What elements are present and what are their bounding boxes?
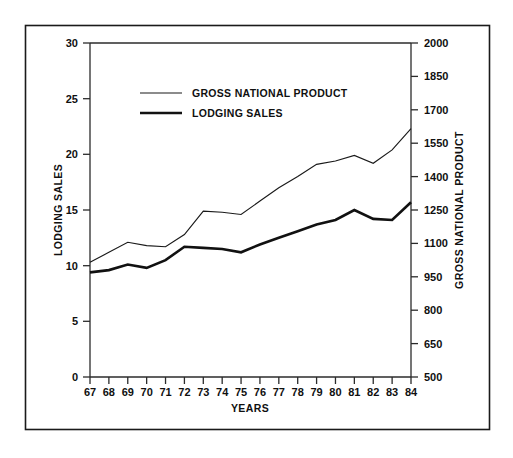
left-tick-label: 10 xyxy=(66,260,78,272)
legend-label-lodging-sales: LODGING SALES xyxy=(192,107,283,119)
x-axis-tick-label: 73 xyxy=(197,386,209,398)
x-axis-tick-label: 72 xyxy=(178,386,190,398)
x-axis-tick-label: 77 xyxy=(273,386,285,398)
right-axis-ticks xyxy=(411,43,418,377)
chart-legend: GROSS NATIONAL PRODUCT LODGING SALES xyxy=(140,87,348,119)
figure-container: 30 25 20 15 10 5 0 2000 1850 1700 155 xyxy=(0,0,513,458)
x-axis-tick-label: 69 xyxy=(122,386,134,398)
x-axis-tick-label: 70 xyxy=(141,386,153,398)
right-tick-label: 650 xyxy=(424,338,442,350)
left-tick-label: 25 xyxy=(66,93,78,105)
right-tick-label: 1850 xyxy=(424,70,448,82)
left-tick-label: 20 xyxy=(66,148,78,160)
left-tick-label: 30 xyxy=(66,37,78,49)
right-tick-label: 500 xyxy=(424,371,442,383)
x-axis-tick-label: 83 xyxy=(386,386,398,398)
left-tick-label: 0 xyxy=(72,371,78,383)
left-axis-title: LODGING SALES xyxy=(52,164,64,256)
right-tick-label: 1550 xyxy=(424,137,448,149)
right-tick-label: 1400 xyxy=(424,171,448,183)
bottom-axis-title: YEARS xyxy=(231,402,269,414)
x-axis-tick-label: 68 xyxy=(103,386,115,398)
x-axis-tick-label: 67 xyxy=(84,386,96,398)
right-axis-title: GROSS NATIONAL PRODUCT xyxy=(453,131,465,289)
right-tick-label: 1250 xyxy=(424,204,448,216)
x-axis-tick-label: 84 xyxy=(405,386,418,398)
x-axis-tick-label: 81 xyxy=(348,386,360,398)
right-tick-label: 1700 xyxy=(424,104,448,116)
right-tick-label: 1100 xyxy=(424,237,448,249)
right-tick-label: 2000 xyxy=(424,37,448,49)
legend-label-gross-national-product: GROSS NATIONAL PRODUCT xyxy=(192,87,348,99)
x-axis-tick-label: 74 xyxy=(216,386,229,398)
x-axis-tick-label: 75 xyxy=(235,386,247,398)
left-tick-label: 5 xyxy=(72,315,78,327)
x-axis-tick-label: 79 xyxy=(310,386,322,398)
line-chart: 30 25 20 15 10 5 0 2000 1850 1700 155 xyxy=(0,0,513,458)
right-axis-tick-labels: 2000 1850 1700 1550 1400 1250 1100 950 8… xyxy=(424,37,448,383)
right-tick-label: 800 xyxy=(424,304,442,316)
left-axis-tick-labels: 30 25 20 15 10 5 0 xyxy=(66,37,78,383)
x-axis-tick-label: 80 xyxy=(329,386,341,398)
x-axis-tick-label: 82 xyxy=(367,386,379,398)
x-axis-tick-labels: 676869707172737475767778798081828384 xyxy=(84,386,418,398)
x-axis-tick-label: 76 xyxy=(254,386,266,398)
x-axis-tick-label: 78 xyxy=(292,386,304,398)
left-axis-ticks xyxy=(83,43,90,377)
right-tick-label: 950 xyxy=(424,271,442,283)
x-axis-ticks xyxy=(90,377,411,384)
series-line-lodging-sales xyxy=(90,202,411,272)
left-tick-label: 15 xyxy=(66,204,78,216)
x-axis-tick-label: 71 xyxy=(159,386,171,398)
series-line-gross-national-product xyxy=(90,129,411,263)
